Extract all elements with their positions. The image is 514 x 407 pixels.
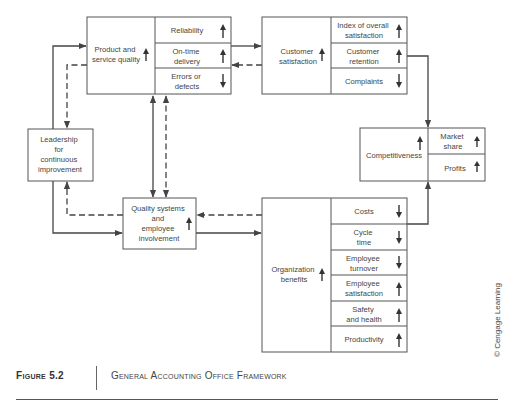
- figure-number: Figure 5.2: [16, 370, 64, 381]
- node-label: Customer satisfaction: [279, 47, 317, 66]
- metric-index-overall-satisfaction: Index of overall satisfaction: [337, 21, 391, 40]
- metric-costs: Costs: [354, 207, 374, 216]
- node-label: Competitiveness: [366, 151, 422, 160]
- gao-framework-diagram: Product and service quality Reliability …: [0, 0, 514, 407]
- edge-product-to-leadership: [67, 65, 87, 128]
- node-competitiveness: Competitiveness Market share Profits: [360, 128, 485, 181]
- node-organization-benefits: Organization benefits Costs Cycle time E…: [262, 198, 407, 352]
- edge-org-to-competitiveness: [407, 182, 428, 224]
- edge-leadership-to-quality: [53, 181, 122, 233]
- product-label-line-1: Product and: [94, 45, 135, 54]
- node-label: Leadership for continuous improvement: [38, 135, 83, 174]
- edge-quality-to-leadership: [67, 182, 123, 215]
- metric-customer-retention: Customer retention: [346, 47, 381, 66]
- caption-divider: [96, 366, 97, 390]
- product-label-line-2: service quality: [92, 55, 140, 64]
- figure-caption: Figure 5.2 General Accounting Office Fra…: [16, 366, 498, 400]
- metric-productivity: Productivity: [344, 335, 383, 344]
- metric-employee-turnover: Employee turnover: [346, 254, 382, 273]
- metric-complaints: Complaints: [345, 77, 383, 86]
- node-label: Product and service quality: [92, 45, 140, 64]
- caption-rule: [16, 399, 498, 400]
- metric-market-share: Market share: [440, 132, 465, 151]
- edge-customer-to-competitiveness: [407, 56, 428, 127]
- metric-on-time-delivery: On-time delivery: [172, 47, 201, 66]
- edge-leadership-to-product: [53, 46, 86, 129]
- figure-title: General Accounting Office Framework: [111, 370, 287, 381]
- node-customer-satisfaction: Customer satisfaction Index of overall s…: [262, 17, 407, 94]
- metric-reliability: Reliability: [171, 26, 204, 35]
- metric-errors-or-defects: Errors or defects: [171, 72, 203, 91]
- node-quality-systems: Quality systems and employee involvement: [123, 198, 196, 249]
- metric-employee-satisfaction: Employee satisfaction: [345, 279, 383, 298]
- copyright-credit: © Cengage Learning: [489, 280, 505, 360]
- metric-profits: Profits: [444, 164, 466, 173]
- node-leadership: Leadership for continuous improvement: [28, 129, 93, 181]
- node-product-quality: Product and service quality Reliability …: [87, 17, 231, 94]
